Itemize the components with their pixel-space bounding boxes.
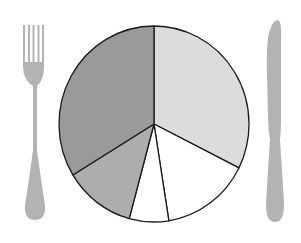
plate-pie-chart-illustration bbox=[0, 0, 301, 243]
pie-chart bbox=[59, 26, 249, 222]
knife-icon bbox=[266, 20, 284, 222]
fork-icon bbox=[23, 25, 45, 220]
